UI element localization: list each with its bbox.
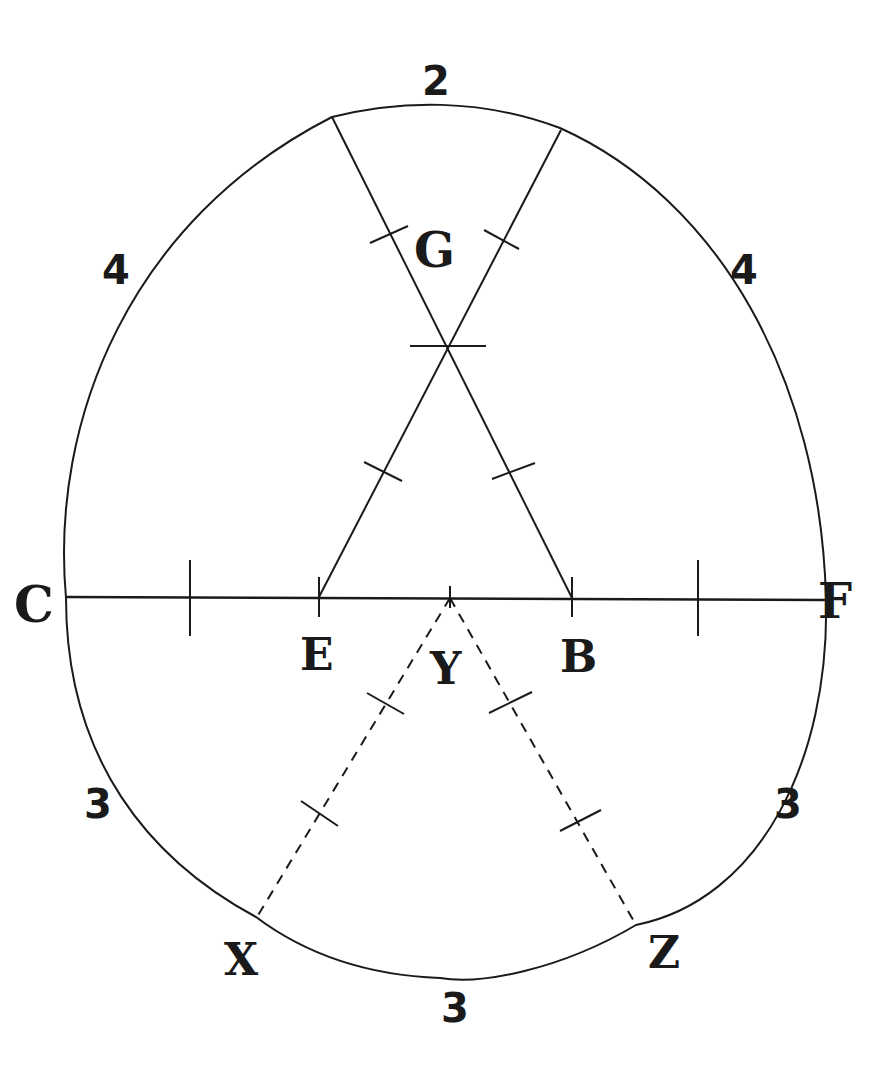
arc-label-lower-right: 3 [774, 781, 802, 827]
line-b-to-top [332, 117, 572, 598]
label-g: G [414, 222, 455, 278]
arc-label-lower-left: 3 [84, 781, 112, 827]
label-x: X [224, 934, 259, 985]
line-e-to-top [319, 130, 561, 597]
tick-lower-right [492, 463, 535, 479]
tick-dashed-right-1 [489, 692, 532, 713]
label-z: Z [648, 927, 680, 978]
label-y: Y [429, 643, 462, 694]
tick-dashed-left-1 [367, 693, 404, 714]
line-cf [66, 597, 826, 600]
tick-upper-left [370, 226, 408, 243]
dashed-line-y-x [257, 598, 450, 917]
label-c: C [14, 575, 54, 634]
dashed-line-y-z [450, 598, 636, 925]
geometry-diagram: C F E Y B G X Z 2 4 4 3 3 3 [0, 0, 889, 1091]
label-f: F [818, 573, 852, 629]
tick-lower-left [364, 462, 402, 481]
arc-label-upper-right: 4 [730, 247, 758, 293]
arc-label-upper-left: 4 [102, 247, 130, 293]
tick-dashed-left-2 [301, 801, 338, 826]
label-e: E [300, 629, 334, 680]
label-b: B [560, 631, 597, 682]
arc-label-top: 2 [422, 58, 450, 104]
arc-label-bottom: 3 [441, 985, 469, 1031]
tick-dashed-right-2 [560, 810, 601, 831]
